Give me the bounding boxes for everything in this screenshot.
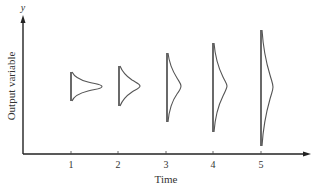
y-axis-label: Output variable (5, 52, 17, 121)
x-tick-label-2: 2 (116, 159, 121, 170)
distribution-time-2 (119, 66, 140, 106)
y-axis-symbol: y (20, 2, 26, 13)
y-axis-arrow-icon (21, 15, 26, 23)
distribution-time-5 (261, 30, 273, 146)
x-axis-label: Time (155, 173, 178, 185)
x-axis-arrow-icon (303, 152, 311, 157)
x-tick-label-5: 5 (259, 159, 264, 170)
distribution-time-4 (213, 43, 227, 132)
x-tick-label-4: 4 (211, 159, 216, 170)
distribution-time-1 (71, 72, 102, 101)
x-tick-label-3: 3 (164, 159, 169, 170)
x-tick-label-1: 1 (69, 159, 74, 170)
figure: 1 2 3 4 5 Time y Output variable (0, 0, 312, 188)
distribution-time-3 (167, 53, 181, 122)
